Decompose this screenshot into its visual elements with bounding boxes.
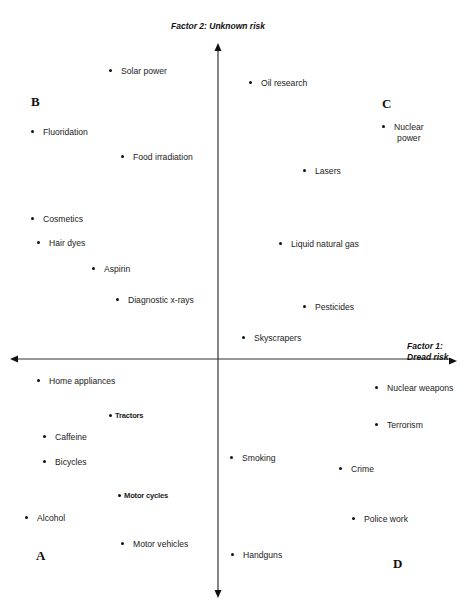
data-point-dot xyxy=(121,542,124,545)
point-label-line2: power xyxy=(397,133,420,143)
point-label: Lasers xyxy=(315,166,341,176)
point-caffeine: Caffeine xyxy=(43,432,87,443)
arrow-right-icon xyxy=(449,358,457,365)
point-label: Oil research xyxy=(261,78,307,88)
point-label: Bicycles xyxy=(55,457,87,467)
data-point-dot xyxy=(37,241,40,244)
arrow-up-icon xyxy=(215,43,222,51)
point-label: Terrorism xyxy=(387,420,423,430)
point-handguns: Handguns xyxy=(231,550,282,561)
point-terrorism: Terrorism xyxy=(375,420,423,431)
point-label: Pesticides xyxy=(315,302,354,312)
data-point-dot xyxy=(375,423,378,426)
point-label: Skyscrapers xyxy=(254,333,301,343)
y-axis-title: Factor 2: Unknown risk xyxy=(171,21,265,32)
point-label: Liquid natural gas xyxy=(291,239,359,249)
point-crime: Crime xyxy=(339,464,374,475)
point-label: Nuclear weapons xyxy=(387,383,453,393)
point-label: Cosmetics xyxy=(43,214,83,224)
point-solar-power: Solar power xyxy=(109,66,167,77)
point-label: Diagnostic x-rays xyxy=(128,295,194,305)
point-pesticides: Pesticides xyxy=(303,302,354,313)
point-hair-dyes: Hair dyes xyxy=(37,238,85,249)
point-smoking: Smoking xyxy=(230,453,275,464)
data-point-dot xyxy=(242,336,245,339)
point-skyscrapers: Skyscrapers xyxy=(242,333,301,344)
quadrant-label-d: D xyxy=(393,556,402,572)
x-axis-title-line1: Factor 1: xyxy=(407,341,449,352)
point-food-irradiation: Food irradiation xyxy=(121,152,193,163)
point-label: Food irradiation xyxy=(133,152,193,162)
point-aspirin: Aspirin xyxy=(92,264,130,275)
point-nuclear-power: Nuclearpower xyxy=(382,122,424,144)
point-label: Alcohol xyxy=(37,513,65,523)
point-cosmetics: Cosmetics xyxy=(31,214,83,225)
point-bicycles: Bicycles xyxy=(43,457,87,468)
point-label: Handguns xyxy=(243,550,282,560)
point-liquid-natural-gas: Liquid natural gas xyxy=(279,239,359,250)
point-police-work: Police work xyxy=(352,514,408,525)
point-label: Crime xyxy=(351,464,374,474)
quadrant-label-b: B xyxy=(31,94,40,110)
quadrant-label-a: A xyxy=(36,548,45,564)
arrow-down-icon xyxy=(215,590,222,598)
data-point-dot xyxy=(230,456,233,459)
data-point-dot xyxy=(31,130,34,133)
point-diagnostic-xrays: Diagnostic x-rays xyxy=(116,295,194,306)
data-point-dot xyxy=(121,155,124,158)
arrow-left-icon xyxy=(10,356,18,363)
data-point-dot xyxy=(92,267,95,270)
point-oil-research: Oil research xyxy=(249,78,307,89)
data-point-dot xyxy=(249,81,252,84)
data-point-dot xyxy=(37,379,40,382)
point-tractors: Tractors xyxy=(109,410,143,421)
data-point-dot xyxy=(279,242,282,245)
x-axis-title: Factor 1: Dread risk xyxy=(407,341,449,363)
point-label: Home appliances xyxy=(49,376,115,386)
data-point-dot xyxy=(375,386,378,389)
point-label: Fluoridation xyxy=(43,127,88,137)
data-point-dot xyxy=(31,217,34,220)
data-point-dot xyxy=(303,169,306,172)
data-point-dot xyxy=(43,460,46,463)
point-home-appliances: Home appliances xyxy=(37,376,115,387)
data-point-dot xyxy=(382,125,385,128)
point-motor-cycles: Motor cycles xyxy=(118,490,168,501)
data-point-dot xyxy=(25,516,28,519)
point-label: Caffeine xyxy=(55,432,87,442)
data-point-dot xyxy=(116,298,119,301)
data-point-dot xyxy=(109,69,112,72)
point-fluoridation: Fluoridation xyxy=(31,127,88,138)
data-point-dot xyxy=(339,467,342,470)
data-point-dot xyxy=(109,414,112,417)
point-alcohol: Alcohol xyxy=(25,513,65,524)
point-label: Police work xyxy=(364,514,408,524)
point-label: Solar power xyxy=(121,66,167,76)
point-lasers: Lasers xyxy=(303,166,341,177)
data-point-dot xyxy=(118,494,121,497)
point-label: Motor vehicles xyxy=(133,539,188,549)
quadrant-label-c: C xyxy=(382,96,391,112)
point-motor-vehicles: Motor vehicles xyxy=(121,539,188,550)
x-axis-title-line2: Dread risk xyxy=(407,352,449,363)
point-label: Tractors xyxy=(115,411,143,420)
data-point-dot xyxy=(231,553,234,556)
point-nuclear-weapons: Nuclear weapons xyxy=(375,383,453,394)
point-label: Aspirin xyxy=(104,264,130,274)
point-label-line1: Nuclear xyxy=(394,122,424,132)
data-point-dot xyxy=(43,435,46,438)
point-label: Nuclearpower xyxy=(394,122,424,144)
point-label: Motor cycles xyxy=(124,491,168,500)
point-label: Smoking xyxy=(242,453,275,463)
data-point-dot xyxy=(352,517,355,520)
data-point-dot xyxy=(303,305,306,308)
point-label: Hair dyes xyxy=(49,238,85,248)
